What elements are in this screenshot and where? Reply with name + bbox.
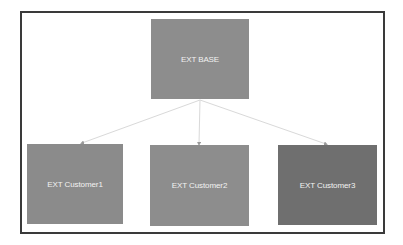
node-label: EXT Customer3 bbox=[300, 181, 355, 190]
node-ext-customer2: EXT Customer2 bbox=[150, 145, 249, 226]
node-ext-customer1: EXT Customer1 bbox=[27, 144, 123, 224]
node-label: EXT Customer2 bbox=[172, 181, 227, 190]
node-ext-base: EXT BASE bbox=[151, 19, 249, 99]
node-label: EXT Customer1 bbox=[47, 180, 102, 189]
node-ext-customer3: EXT Customer3 bbox=[278, 145, 377, 225]
node-label: EXT BASE bbox=[181, 55, 219, 64]
